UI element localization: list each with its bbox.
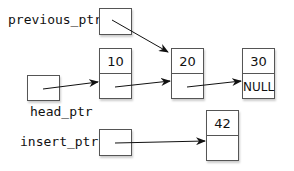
head-ptr-arrow: [43, 82, 98, 89]
arrows: [0, 0, 294, 171]
previous-ptr-arrow: [112, 20, 168, 52]
insert-ptr-arrow: [115, 141, 205, 143]
link-10-20-arrow: [115, 81, 170, 87]
link-20-30-arrow: [187, 81, 241, 87]
